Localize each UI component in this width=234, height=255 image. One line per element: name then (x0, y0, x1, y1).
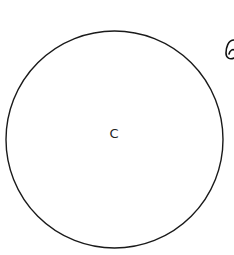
circle-label: C (109, 126, 118, 141)
diagram-canvas: C (0, 0, 234, 255)
partial-handwritten-glyph (226, 40, 234, 59)
